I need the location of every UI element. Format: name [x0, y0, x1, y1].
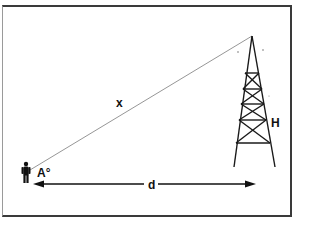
- line-of-sight: [30, 36, 252, 170]
- arrowhead-left-icon: [33, 181, 44, 188]
- hypotenuse-label: x: [116, 97, 123, 109]
- distance-label: d: [146, 179, 157, 191]
- angle-label: A°: [37, 167, 50, 179]
- tower-icon: [234, 36, 275, 167]
- height-label: H: [271, 117, 280, 129]
- arrowhead-right-icon: [245, 181, 256, 188]
- distance-arrow: [33, 181, 256, 188]
- person-icon: [22, 162, 31, 183]
